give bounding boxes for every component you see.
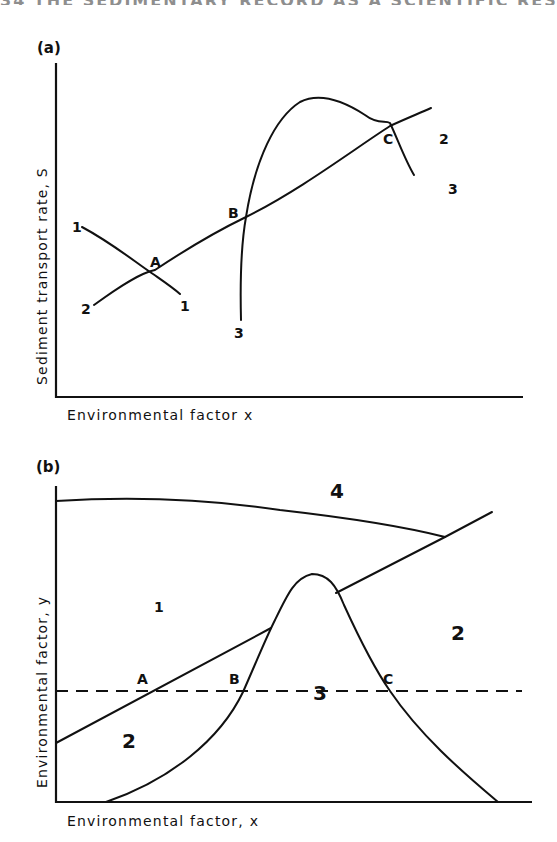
panel-b-point-b: B	[229, 671, 240, 687]
panel-a-axes	[56, 63, 523, 397]
figure-canvas: (a) Sediment transport rate, S Environme…	[0, 0, 557, 842]
panel-a-curve-3-start-label: 3	[234, 325, 244, 341]
panel-b-region-2-right: 2	[451, 621, 465, 645]
panel-b-bell-curve	[106, 574, 498, 802]
panel-b-x-axis-title: Environmental factor, x	[67, 813, 259, 829]
panel-a-curve-1	[82, 227, 180, 294]
panel-a-point-b: B	[228, 205, 239, 221]
panel-a-y-axis-title: Sediment transport rate, S	[34, 167, 50, 385]
panel-b-region-3: 3	[313, 681, 327, 705]
panel-a-curve-2	[94, 108, 431, 305]
panel-b-top-boundary	[56, 499, 445, 537]
panel-b: (b) Environmental factor, y Environmenta…	[34, 458, 532, 829]
panel-b-point-c: C	[383, 671, 393, 687]
panel-a-curve-2-end-label: 2	[439, 131, 449, 147]
panel-b-region-4: 4	[330, 479, 344, 503]
panel-a-label: (a)	[37, 39, 61, 57]
panel-b-point-a: A	[137, 671, 148, 687]
panel-a-point-a: A	[150, 254, 161, 270]
panel-a-curve-3-end-label: 3	[448, 181, 458, 197]
panel-a-curve-2-start-label: 2	[81, 301, 91, 317]
panel-a: (a) Sediment transport rate, S Environme…	[34, 39, 523, 423]
panel-a-point-c: C	[383, 131, 393, 147]
panel-b-y-axis-title: Environmental factor, y	[34, 596, 50, 788]
panel-a-curve-1-end-label: 1	[180, 298, 190, 314]
panel-b-region-1: 1	[154, 599, 164, 615]
panel-b-label: (b)	[36, 458, 60, 476]
panel-a-x-axis-title: Environmental factor x	[67, 407, 253, 423]
panel-b-diagonal-upper	[336, 512, 492, 593]
panel-a-curve-1-start-label: 1	[72, 219, 82, 235]
panel-b-region-2-left: 2	[122, 729, 136, 753]
